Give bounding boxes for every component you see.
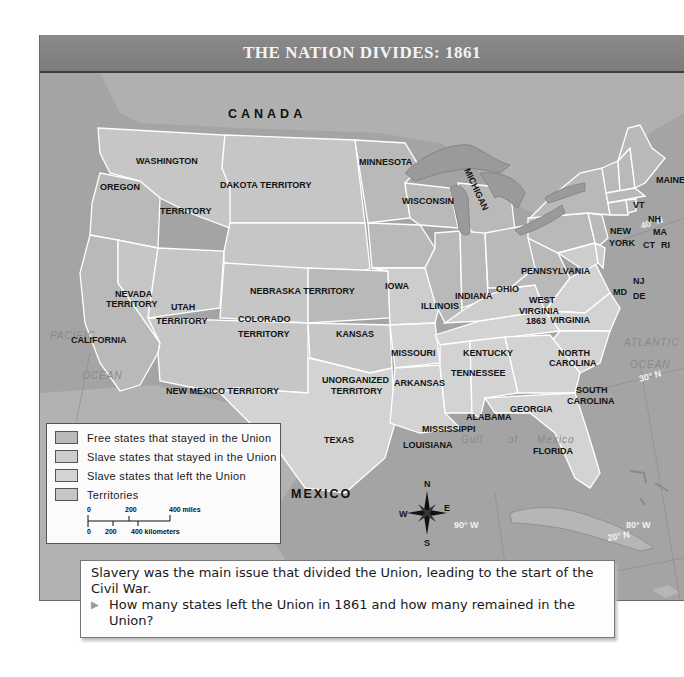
label-kansas: KANSAS: [336, 329, 374, 339]
territory-dakota: [222, 135, 365, 223]
label-colorado-2: TERRITORY: [238, 329, 290, 339]
label-pennsylvania: PENNSYLVANIA: [521, 266, 591, 276]
state-arkansas: [390, 323, 440, 368]
map-legend: Free states that stayed in the Union Sla…: [46, 423, 281, 544]
label-tennessee: TENNESSEE: [451, 368, 506, 378]
label-mexico: MEXICO: [291, 487, 352, 501]
label-illinois: ILLINOIS: [421, 301, 459, 311]
label-unorganized-1: UNORGANIZED: [322, 375, 389, 385]
compass-w: W: [399, 509, 408, 519]
legend-swatch: [55, 488, 78, 501]
label-south-carolina-1: SOUTH: [576, 385, 608, 395]
label-nj: NJ: [633, 276, 645, 286]
label-atlantic-2: OCEAN: [630, 359, 671, 370]
label-california: CALIFORNIA: [71, 335, 127, 345]
state-connecticut: [608, 200, 628, 215]
legend-label: Territories: [87, 489, 139, 501]
label-ct: CT: [643, 240, 655, 250]
label-washington: WASHINGTON: [136, 156, 198, 166]
label-ma: MA: [653, 227, 667, 237]
label-north-carolina-1: NORTH: [558, 348, 590, 358]
label-md: MD: [613, 287, 627, 297]
label-unorganized-2: TERRITORY: [331, 386, 383, 396]
legend-swatch: [55, 450, 78, 463]
legend-item-slave-union: Slave states that stayed in the Union: [55, 447, 280, 466]
compass-s: S: [424, 538, 430, 548]
label-maine: MAINE: [656, 175, 684, 185]
compass-n: N: [424, 479, 431, 489]
label-gulf-2: of: [508, 434, 519, 445]
legend-item-territories: Territories: [55, 485, 280, 504]
label-nh: NH: [648, 214, 661, 224]
label-utah-2: TERRITORY: [156, 316, 208, 326]
label-atlantic-1: ATLANTIC: [623, 337, 680, 348]
play-arrow-icon: ▶: [91, 597, 109, 629]
label-florida: FLORIDA: [533, 446, 573, 456]
label-new-york-2: YORK: [609, 238, 636, 248]
legend-label: Free states that stayed in the Union: [87, 432, 271, 444]
label-iowa: IOWA: [385, 281, 409, 291]
label-utah-1: UTAH: [171, 302, 195, 312]
label-north-carolina-2: CAROLINA: [549, 358, 597, 368]
label-nevada-2: TERRITORY: [106, 299, 158, 309]
scale-bar: 0 200 400 miles 0 200 400 kilometers: [87, 506, 217, 540]
scale-miles-0: 0: [87, 506, 91, 513]
label-alabama: ALABAMA: [466, 412, 512, 422]
scale-miles-200: 200: [125, 506, 137, 513]
label-louisiana: LOUISIANA: [403, 440, 453, 450]
label-mississippi: MISSISSIPPI: [422, 424, 476, 434]
label-de: DE: [633, 291, 646, 301]
label-georgia: GEORGIA: [510, 404, 553, 414]
label-south-carolina-2: CAROLINA: [567, 396, 615, 406]
scale-km-400: 400 kilometers: [131, 528, 180, 535]
label-colorado-1: COLORADO: [238, 314, 291, 324]
label-kentucky: KENTUCKY: [463, 348, 513, 358]
label-dakota: DAKOTA TERRITORY: [220, 180, 312, 190]
legend-swatch: [55, 469, 78, 482]
label-virginia: VIRGINIA: [550, 315, 591, 325]
caption-question-row: ▶ How many states left the Union in 1861…: [91, 597, 604, 629]
legend-item-free-union: Free states that stayed in the Union: [55, 428, 280, 447]
label-arkansas: ARKANSAS: [394, 378, 445, 388]
label-indiana: INDIANA: [455, 291, 493, 301]
scale-miles-400: 400 miles: [169, 506, 201, 513]
label-new-mexico: NEW MEXICO TERRITORY: [166, 386, 279, 396]
caption-question: How many states left the Union in 1861 a…: [109, 597, 604, 629]
caption-box: Slavery was the main issue that divided …: [80, 560, 615, 638]
scale-km-0: 0: [87, 528, 91, 535]
legend-label: Slave states that stayed in the Union: [87, 451, 277, 463]
label-missouri: MISSOURI: [391, 348, 436, 358]
label-80w: 80° W: [626, 520, 651, 530]
label-new-york-1: NEW: [610, 226, 632, 236]
label-texas: TEXAS: [324, 435, 354, 445]
label-wisconsin: WISCONSIN: [402, 196, 454, 206]
scale-km-200: 200: [105, 528, 117, 535]
label-west-virginia-1: WEST: [529, 295, 556, 305]
caption-text: Slavery was the main issue that divided …: [91, 565, 604, 597]
label-nevada-1: NEVADA: [115, 289, 153, 299]
label-pacific-2: OCEAN: [82, 370, 123, 381]
label-gulf-1: Gulf: [461, 434, 484, 445]
scale-line: [87, 515, 177, 527]
label-ohio: OHIO: [496, 284, 519, 294]
label-90w: 90° W: [454, 520, 479, 530]
label-minnesota: MINNESOTA: [359, 157, 413, 167]
compass-e: E: [444, 503, 450, 513]
label-ri: RI: [661, 240, 670, 250]
legend-label: Slave states that left the Union: [87, 470, 246, 482]
label-vt: VT: [633, 200, 645, 210]
label-washington-territory: TERRITORY: [160, 206, 212, 216]
legend-item-slave-left: Slave states that left the Union: [55, 466, 280, 485]
map-title: THE NATION DIVIDES: 1861: [243, 43, 481, 63]
label-west-virginia-3: 1863: [526, 316, 546, 326]
map-title-bar: THE NATION DIVIDES: 1861: [40, 35, 684, 73]
label-gulf-3: Mexico: [537, 434, 575, 445]
label-oregon: OREGON: [100, 182, 140, 192]
label-nebraska: NEBRASKA TERRITORY: [250, 286, 355, 296]
legend-swatch: [55, 431, 78, 444]
label-canada: CANADA: [228, 107, 306, 121]
